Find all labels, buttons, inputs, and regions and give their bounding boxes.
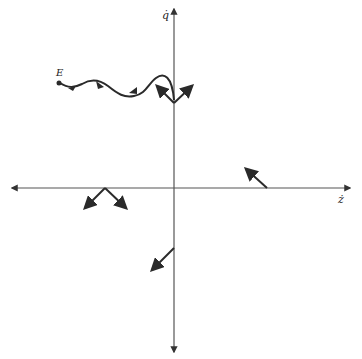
vector-lower-axis — [152, 248, 174, 270]
vector-right-axis — [246, 169, 267, 188]
phase-diagram: q̇ ż E — [0, 0, 362, 359]
vector-pair-left-axis — [85, 188, 126, 208]
vertical-axis-label: q̇ — [162, 10, 169, 21]
point-e-label: E — [56, 68, 63, 78]
horizontal-axis-label: ż — [338, 194, 344, 205]
curve-arrow-icon — [129, 87, 137, 94]
trajectory-curve — [57, 76, 175, 100]
diagram-svg — [0, 0, 362, 359]
